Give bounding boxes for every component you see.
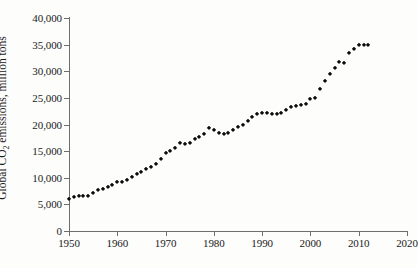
data-point [323,79,328,84]
data-point [327,72,332,77]
data-point [347,50,352,55]
data-point [91,190,96,195]
x-axis-tick-label: 1990 [251,238,273,249]
data-point [168,149,173,154]
data-point [245,119,250,124]
x-axis-tick-label: 1980 [203,238,225,249]
x-axis-tick [117,231,118,236]
y-axis-tick-label: 35,000 [32,39,62,50]
data-point [149,165,154,170]
y-axis-tick-label: 25,000 [32,92,62,103]
data-point [231,127,236,132]
x-axis-tick-label: 1960 [106,238,128,249]
data-point [284,108,289,113]
y-axis-tick [64,45,69,46]
x-axis-tick-label: 2020 [396,238,418,249]
data-point [197,134,202,139]
y-axis-tick [64,178,69,179]
x-axis-tick [262,231,263,236]
data-point [279,110,284,115]
data-point [67,197,72,202]
y-axis-tick-label: 0 [57,226,62,237]
data-point [86,193,91,198]
data-point [294,104,299,109]
data-point [144,166,149,171]
data-point [236,125,241,130]
data-point [115,180,120,185]
y-axis-tick-label: 10,000 [32,172,62,183]
data-point [120,180,125,185]
data-point [163,151,168,156]
x-axis-line [69,231,408,232]
data-point [241,122,246,127]
data-point [212,128,217,133]
data-point [318,86,323,91]
data-point [313,95,318,100]
data-point [226,131,231,136]
data-point [265,111,270,116]
x-axis-tick [166,231,167,236]
data-point [96,188,101,193]
data-point [255,112,260,117]
x-axis-tick-label: 2010 [348,238,370,249]
x-axis-tick [310,231,311,236]
y-axis-tick [64,18,69,19]
data-point [158,157,163,162]
x-axis-tick [359,231,360,236]
data-point [342,61,347,66]
x-axis-tick-label: 1970 [155,238,177,249]
plot-area: 05,00010,00015,00020,00025,00030,00035,0… [69,18,407,231]
x-axis-tick [407,231,408,236]
data-point [178,141,183,146]
data-point [216,131,221,136]
data-point [125,178,130,183]
y-axis-tick-label: 5,000 [38,199,62,210]
data-point [260,111,265,116]
data-point [299,103,304,108]
y-axis-tick-label: 40,000 [32,13,62,24]
data-point [332,65,337,70]
data-point [270,112,275,117]
y-axis-tick [64,98,69,99]
data-point [303,102,308,107]
data-point [352,47,357,52]
y-axis-tick-label: 20,000 [32,119,62,130]
data-point [187,141,192,146]
data-point [250,115,255,120]
data-point [366,42,371,47]
x-axis-tick-label: 1950 [58,238,80,249]
data-point [183,141,188,146]
y-axis-tick [64,204,69,205]
data-point [134,172,139,177]
y-axis-tick-label: 15,000 [32,146,62,157]
x-axis-tick [69,231,70,236]
x-axis-tick [214,231,215,236]
y-axis-title: Global CO2 emissions, million tons [0,18,11,218]
data-point [154,162,159,167]
data-point [139,169,144,174]
data-point [110,183,115,188]
y-axis-tick [64,151,69,152]
y-axis-tick [64,71,69,72]
data-point [356,42,361,47]
y-axis-tick [64,125,69,126]
y-axis-tick-label: 30,000 [32,66,62,77]
data-point [105,185,110,190]
data-point [130,175,135,180]
data-point [173,146,178,151]
data-point [101,186,106,191]
data-point [192,137,197,142]
data-point [72,194,77,199]
x-axis-tick-label: 2000 [300,238,322,249]
data-point [202,132,207,137]
